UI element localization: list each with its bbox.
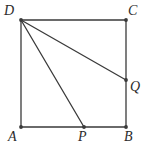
segment-dp <box>21 20 84 127</box>
vertex-dot-a <box>19 125 23 129</box>
segments-group <box>21 20 126 127</box>
vertex-dot-q <box>124 78 128 82</box>
vertex-dot-c <box>124 18 128 22</box>
segment-dq <box>21 20 126 80</box>
vertex-dot-d <box>19 18 23 22</box>
vertex-label-b: B <box>124 130 133 144</box>
vertex-label-d: D <box>4 4 14 18</box>
geometry-figure: ABCDPQ <box>0 0 150 155</box>
vertex-label-p: P <box>78 130 87 144</box>
vertex-label-c: C <box>128 4 137 18</box>
vertex-label-q: Q <box>130 80 140 94</box>
vertices-group <box>19 18 128 129</box>
vertex-label-a: A <box>8 130 17 144</box>
